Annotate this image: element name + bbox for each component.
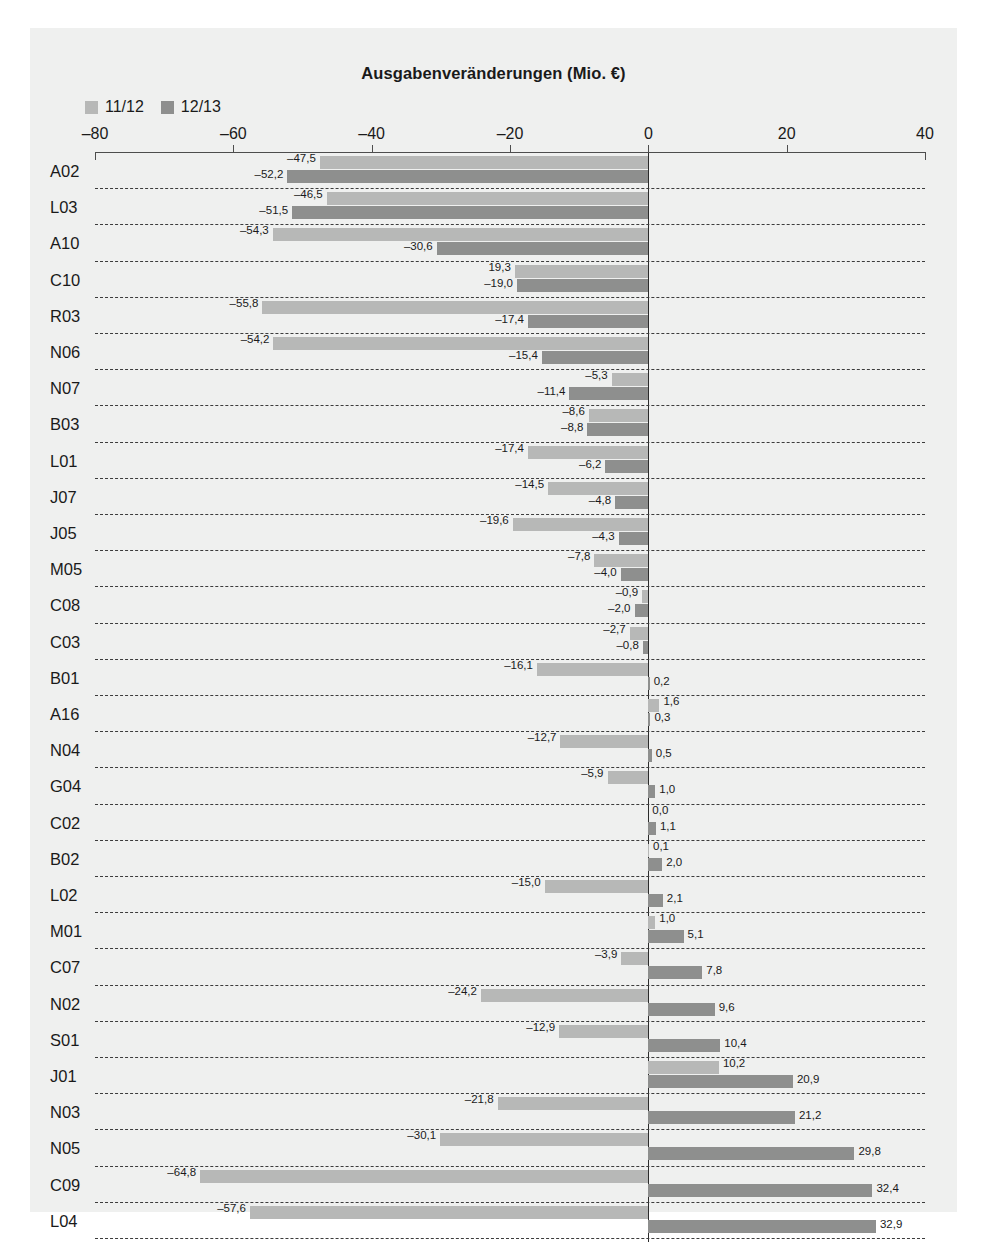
category-label-B02: B02 [50,849,79,868]
bar-A10-12-13 [437,242,649,255]
bar-J07-12-13 [615,496,648,509]
category-label-R03: R03 [50,306,80,325]
category-label-S01: S01 [50,1030,79,1049]
bar-C02-12-13 [648,822,656,835]
bar-value-label: 5,1 [684,929,704,940]
x-axis-tick-label: 0 [644,125,653,143]
chart-row: B020,12,0 [30,841,957,877]
bar-value-label: –30,1 [407,1130,440,1141]
bar-A02-11-12 [320,156,649,169]
bar-value-label: –2,0 [608,603,634,614]
chart-row: C020,01,1 [30,805,957,841]
bar-value-label: –15,0 [512,877,545,888]
bar-N02-11-12 [481,989,648,1002]
bar-N05-11-12 [440,1133,648,1146]
category-label-J05: J05 [50,524,77,543]
category-label-N07: N07 [50,379,80,398]
category-label-C03: C03 [50,632,80,651]
bar-C07-11-12 [621,952,648,965]
x-axis-tick [510,145,511,153]
chart-panel: Ausgabenveränderungen (Mio. €) 11/1212/1… [30,28,957,1212]
bar-value-label: –17,4 [495,314,528,325]
chart-row: L01–17,4–6,2 [30,443,957,479]
chart-row: C07–3,97,8 [30,949,957,985]
bar-S01-12-13 [648,1039,720,1052]
category-label-N06: N06 [50,343,80,362]
bar-B02-12-13 [648,858,662,871]
bar-value-label: 20,9 [793,1074,819,1085]
category-label-A02: A02 [50,162,79,181]
bar-value-label: –64,8 [167,1167,200,1178]
category-label-N05: N05 [50,1139,80,1158]
bar-N07-11-12 [612,373,649,386]
bar-value-label: 32,4 [872,1183,898,1194]
bar-value-label: –7,8 [568,551,594,562]
bar-value-label: –57,6 [217,1203,250,1214]
category-label-B03: B03 [50,415,79,434]
chart-row: J0110,220,9 [30,1058,957,1094]
chart-row: C08–0,9–2,0 [30,587,957,623]
category-label-N04: N04 [50,741,80,760]
bar-value-label: –30,6 [404,241,437,252]
chart-row: A02–47,5–52,2 [30,153,957,189]
bar-value-label: 1,0 [655,913,675,924]
bar-L03-12-13 [292,206,648,219]
chart-row: L02–15,02,1 [30,877,957,913]
bar-value-label: 32,9 [876,1219,902,1230]
bar-value-label: –17,4 [495,443,528,454]
bar-value-label: 1,1 [656,821,676,832]
bar-value-label: –12,9 [526,1022,559,1033]
bar-value-label: –5,9 [581,768,607,779]
category-label-B01: B01 [50,668,79,687]
chart-row: A161,60,3 [30,696,957,732]
bar-C10-11-12 [515,265,648,278]
bar-C03-12-13 [643,641,649,654]
x-axis-tick-label: –60 [220,125,247,143]
x-axis-tick-label: –80 [82,125,109,143]
bar-C08-12-13 [635,604,649,617]
bar-N02-12-13 [648,1003,714,1016]
bar-value-label: 0,3 [650,712,670,723]
category-label-C02: C02 [50,813,80,832]
x-axis-tick-label: 20 [778,125,796,143]
category-label-C09: C09 [50,1175,80,1194]
bar-J05-12-13 [619,532,649,545]
bar-N03-11-12 [498,1097,649,1110]
bar-value-label: 19,3 [488,262,514,273]
chart-row: R03–55,8–17,4 [30,298,957,334]
bar-value-label: –15,4 [509,350,542,361]
chart-row: M05–7,8–4,0 [30,551,957,587]
bar-value-label: –46,5 [294,189,327,200]
category-label-L01: L01 [50,451,78,470]
category-label-N02: N02 [50,994,80,1013]
category-label-J01: J01 [50,1067,77,1086]
bar-value-label: –5,3 [585,370,611,381]
category-label-A10: A10 [50,234,79,253]
bar-value-label: 0,5 [652,748,672,759]
bar-value-label: 29,8 [854,1146,880,1157]
x-axis-tick-label: –40 [358,125,385,143]
bar-S01-11-12 [559,1025,648,1038]
bar-value-label: –21,8 [465,1094,498,1105]
category-label-N03: N03 [50,1103,80,1122]
bar-G04-11-12 [608,771,649,784]
chart-row: L03–46,5–51,5 [30,189,957,225]
bar-L03-11-12 [327,192,649,205]
bar-value-label: –4,8 [589,495,615,506]
bar-value-label: –8,6 [562,406,588,417]
row-separator [95,1238,925,1239]
bar-value-label: –51,5 [259,205,292,216]
bar-L02-11-12 [545,880,649,893]
chart-row: J05–19,6–4,3 [30,515,957,551]
x-axis-tick [648,145,649,153]
chart-row: N07–5,3–11,4 [30,370,957,406]
bar-J01-11-12 [648,1061,719,1074]
bar-value-label: 0,0 [648,805,668,816]
bar-value-label: –2,7 [603,624,629,635]
bar-L01-12-13 [605,460,648,473]
bar-value-label: 0,2 [650,676,670,687]
chart-row: N02–24,29,6 [30,986,957,1022]
bar-J05-11-12 [513,518,649,531]
bar-value-label: 1,0 [655,784,675,795]
bar-G04-12-13 [648,785,655,798]
